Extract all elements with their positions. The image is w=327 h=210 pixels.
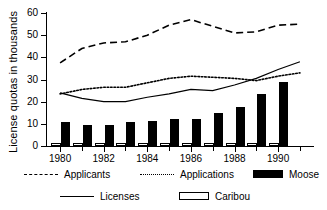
dotted-line-key [140,174,174,175]
y-axis-tick-label: 20 [0,97,38,107]
x-axis-tick [104,147,105,152]
x-axis-tick [235,147,236,152]
x-axis-tick [191,147,192,152]
y-axis-tick-label: 50 [0,30,38,40]
x-axis-minor-tick [213,147,214,151]
y-axis-tick-label: 60 [0,8,38,18]
y-axis-tick-label: 0 [0,141,38,151]
line-applicants [60,20,300,63]
line-series-group [47,13,313,146]
chart-legend: Applicants Applications Moose Licenses C… [0,166,327,210]
plot-area [47,13,313,146]
x-axis-minor-tick [256,147,257,151]
x-axis-tick-label: 1990 [258,153,298,164]
legend-item-moose: Moose [253,168,319,180]
x-axis-minor-tick [300,147,301,151]
legend-label: Applications [180,169,234,180]
x-axis-tick-label: 1982 [84,153,124,164]
x-axis-tick-label: 1980 [40,153,80,164]
x-axis-minor-tick [82,147,83,151]
line-licenses [60,62,300,102]
x-axis-tick [147,147,148,152]
white-bar-key [179,192,209,200]
x-axis-tick-label: 1984 [127,153,167,164]
x-axis-tick-label: 1986 [171,153,211,164]
line-applications [60,73,300,94]
x-axis-tick-label: 1988 [215,153,255,164]
legend-item-applications: Applications [140,168,234,180]
legend-label: Applicants [64,169,110,180]
legend-label: Caribou [215,191,250,202]
legend-item-caribou: Caribou [179,190,250,202]
legend-item-licenses: Licenses [60,190,139,202]
x-axis-line [46,146,314,147]
solid-line-key [60,196,94,197]
x-axis-tick [60,147,61,152]
legend-item-applicants: Applicants [24,168,110,180]
x-axis-minor-tick [125,147,126,151]
legend-label: Moose [289,169,319,180]
legend-label: Licenses [100,191,139,202]
y-axis-tick-label: 10 [0,119,38,129]
y-axis-tick-label: 30 [0,75,38,85]
dashed-line-key [24,174,58,175]
chart-figure: License quotas in thousands 010203040506… [0,0,327,210]
x-axis-minor-tick [169,147,170,151]
black-bar-key [253,170,283,178]
y-axis-tick-label: 40 [0,52,38,62]
x-axis-tick [278,147,279,152]
